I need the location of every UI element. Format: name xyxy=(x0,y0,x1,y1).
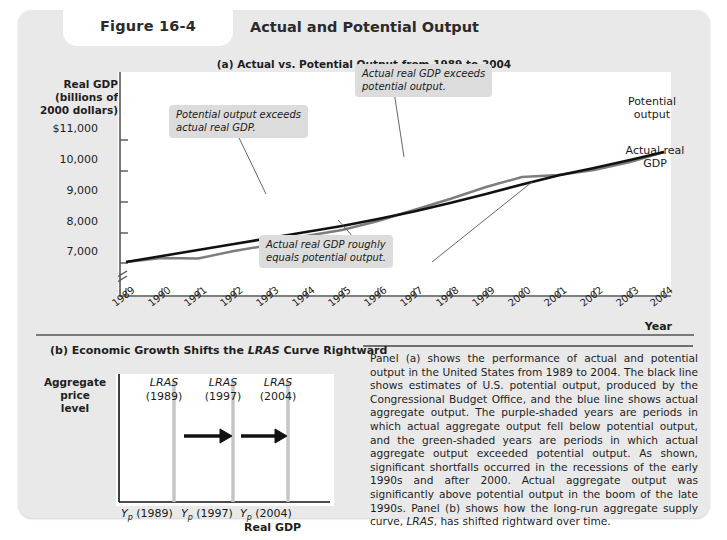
explanation-italic-term: LRAS xyxy=(406,515,433,527)
panel-divider xyxy=(36,334,694,336)
lras-label-2004: LRAS(2004) xyxy=(249,376,307,403)
lras-year: (2004) xyxy=(260,390,297,403)
explanation-rule xyxy=(363,345,693,347)
shift-arrow-2 xyxy=(241,429,287,443)
lras-year: (1989) xyxy=(146,390,183,403)
series-label-potential-output: Potential output xyxy=(612,95,692,121)
callout-actual-equals-potential: Actual real GDP roughly equals potential… xyxy=(259,235,393,268)
callout-actual-exceeds-potential: Actual real GDP exceeds potential output… xyxy=(355,64,492,97)
figure-title: Actual and Potential Output xyxy=(250,19,479,35)
yp-subscript: p xyxy=(188,513,193,522)
panel-a-y-ticks: $11,000 10,000 9,000 8,000 7,000 xyxy=(32,10,98,310)
shift-arrow-1 xyxy=(184,429,232,443)
callout-leader-lines xyxy=(230,72,532,262)
yp-label-2004: Yp (2004) xyxy=(240,507,292,522)
lras-name: LRAS xyxy=(150,376,178,389)
figure-panel: Figure 16-4 Actual and Potential Output … xyxy=(18,10,710,518)
yp-label-1989: Yp (1989) xyxy=(121,507,173,522)
lras-label-1997: LRAS(1997) xyxy=(194,376,252,403)
yp-year: (1997) xyxy=(196,507,233,520)
yp-year: (1989) xyxy=(136,507,173,520)
panel-a-x-axis-label: Year xyxy=(645,320,672,333)
panel-b-title-prefix: (b) Economic Growth Shifts the xyxy=(50,344,248,357)
panel-b-title: (b) Economic Growth Shifts the LRAS Curv… xyxy=(50,344,387,357)
yp-symbol: Y xyxy=(181,507,188,520)
y-tick: $11,000 xyxy=(32,122,98,135)
lras-name: LRAS xyxy=(209,376,237,389)
lras-name: LRAS xyxy=(264,376,292,389)
lras-year: (1997) xyxy=(205,390,242,403)
panel-b-y-axis-label: Aggregate price level xyxy=(38,376,112,415)
callout-potential-exceeds-actual: Potential output exceeds actual real GDP… xyxy=(169,105,308,138)
panel-b-x-axis-label: Real GDP xyxy=(244,521,301,534)
yp-year: (2004) xyxy=(255,507,292,520)
series-label-actual-real-gdp: Actual real GDP xyxy=(614,144,696,170)
series-actual-real-gdp xyxy=(126,152,664,262)
explanation-part-1: Panel (a) shows the performance of actua… xyxy=(370,352,698,527)
yp-symbol: Y xyxy=(121,507,128,520)
explanation-part-2: , has shifted rightward over time. xyxy=(434,515,611,527)
panel-b-title-italic: LRAS xyxy=(248,344,280,357)
y-tick: 8,000 xyxy=(32,215,98,228)
series-potential-output xyxy=(126,152,664,262)
explanation-text: Panel (a) shows the performance of actua… xyxy=(370,352,698,529)
yp-symbol: Y xyxy=(240,507,247,520)
y-tick: 9,000 xyxy=(32,184,98,197)
y-tick: 7,000 xyxy=(32,245,98,258)
yp-label-1997: Yp (1997) xyxy=(181,507,233,522)
lras-label-1989: LRAS(1989) xyxy=(135,376,193,403)
yp-subscript: p xyxy=(128,513,133,522)
y-tick: 10,000 xyxy=(32,153,98,166)
